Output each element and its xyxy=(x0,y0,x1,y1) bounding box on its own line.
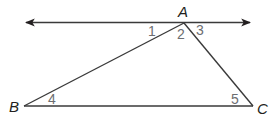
diagram-svg: A B C 1 2 3 4 5 xyxy=(0,0,279,117)
angle-label-5: 5 xyxy=(231,91,239,107)
angle-label-1: 1 xyxy=(148,23,156,39)
side-ac xyxy=(184,23,253,106)
vertex-label-b: B xyxy=(9,98,19,115)
angle-label-3: 3 xyxy=(196,22,204,38)
vertex-label-a: A xyxy=(177,3,188,20)
angle-label-2: 2 xyxy=(177,26,185,42)
vertex-label-c: C xyxy=(257,100,268,117)
geometry-diagram: A B C 1 2 3 4 5 xyxy=(0,0,279,117)
angle-label-4: 4 xyxy=(48,91,56,107)
